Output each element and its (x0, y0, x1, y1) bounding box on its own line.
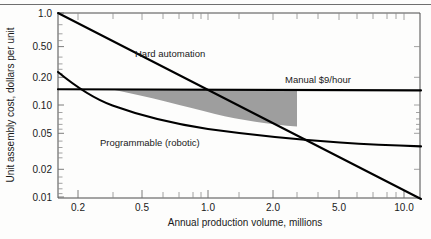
y-tick-label-1.0: 1.0 (38, 8, 52, 19)
y-tick-label-0.10: 0.10 (33, 100, 53, 111)
chart-figure: 1.0 0.50 0.20 0.10 0.05 0.02 0.01 (0, 0, 431, 239)
x-tick-label-0.2: 0.2 (71, 202, 85, 213)
y-axis-title: Unit assembly cost, dollars per unit (5, 27, 16, 182)
x-tick-label-10.0: 10.0 (394, 202, 414, 213)
y-tick-label-0.05: 0.05 (33, 128, 53, 139)
series-label-hard-automation: Hard automation (135, 48, 205, 59)
series-label-manual: Manual $9/hour (285, 74, 351, 85)
y-axis-ticks (58, 13, 64, 197)
y-tick-label-0.02: 0.02 (33, 164, 53, 175)
x-tick-label-1.0: 1.0 (201, 202, 215, 213)
x-tick-label-5.0: 5.0 (332, 202, 346, 213)
cost-comparison-chart: 1.0 0.50 0.20 0.10 0.05 0.02 0.01 (0, 0, 431, 239)
x-tick-label-0.5: 0.5 (135, 202, 149, 213)
series-line-manual (58, 89, 421, 90)
y-tick-label-0.50: 0.50 (33, 41, 53, 52)
x-axis-tick-labels: 0.2 0.5 1.0 2.0 5.0 10.0 (71, 202, 414, 213)
y-tick-label-0.20: 0.20 (33, 72, 53, 83)
series-label-programmable-robotic: Programmable (robotic) (100, 137, 200, 148)
x-axis-title: Annual production volume, millions (168, 217, 323, 228)
y-axis-tick-labels: 1.0 0.50 0.20 0.10 0.05 0.02 0.01 (33, 8, 53, 203)
y-tick-label-0.01: 0.01 (33, 192, 53, 203)
x-tick-label-2.0: 2.0 (266, 202, 280, 213)
